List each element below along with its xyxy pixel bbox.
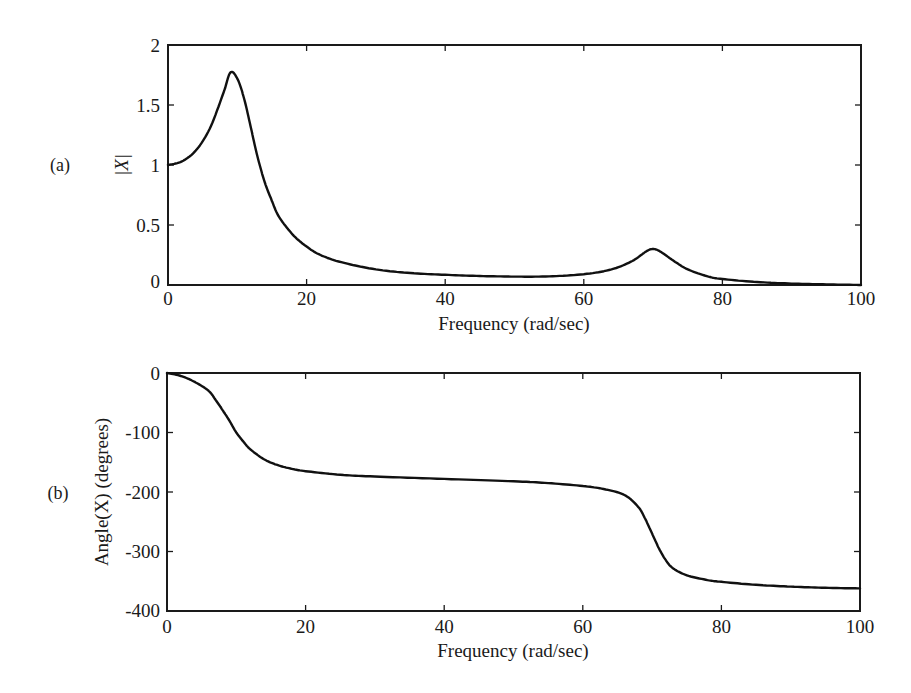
xtick-label: 100 <box>846 616 875 637</box>
figure: 2 1.5 1 0.5 0 0 20 40 60 80 100 Frequenc… <box>0 0 911 693</box>
ytick-label: 0 <box>151 363 161 384</box>
ytick-label: 0.5 <box>136 215 160 236</box>
ticks-a <box>168 45 861 285</box>
xtick-label: 80 <box>712 616 731 637</box>
ytick-label: 1 <box>151 155 161 176</box>
magnitude-curve <box>168 72 861 285</box>
x-axis-label-a: Frequency (rad/sec) <box>438 313 589 335</box>
y-axis-label-a: |X| <box>111 154 132 176</box>
plot-frame-a <box>168 45 861 285</box>
xtick-label: 0 <box>163 288 173 309</box>
ytick-label: 2 <box>151 35 161 56</box>
xtick-label: 0 <box>162 616 172 637</box>
ytick-label: -300 <box>125 541 160 562</box>
y-axis-label-b: Angle(X) (degrees) <box>91 418 113 566</box>
phase-curve <box>167 373 860 588</box>
phase-plot: 0 -100 -200 -300 -400 0 20 40 60 80 100 … <box>48 363 875 662</box>
xtick-label: 80 <box>713 288 732 309</box>
xtick-label: 40 <box>435 616 454 637</box>
ytick-label: -400 <box>125 600 160 621</box>
ytick-label: 1.5 <box>136 95 160 116</box>
panel-label-b: (b) <box>48 483 69 504</box>
xtick-label: 100 <box>847 288 876 309</box>
xtick-label: 20 <box>297 288 316 309</box>
plot-frame-b <box>167 373 860 611</box>
x-axis-label-b: Frequency (rad/sec) <box>437 640 588 662</box>
xtick-label: 60 <box>573 616 592 637</box>
xtick-label: 20 <box>296 616 315 637</box>
ticks-b <box>167 373 860 611</box>
panel-label-a: (a) <box>50 155 70 176</box>
xtick-label: 40 <box>436 288 455 309</box>
magnitude-plot: 2 1.5 1 0.5 0 0 20 40 60 80 100 Frequenc… <box>50 35 875 335</box>
ytick-label: -100 <box>125 422 160 443</box>
xtick-label: 60 <box>574 288 593 309</box>
ytick-label: -200 <box>125 482 160 503</box>
ytick-label: 0 <box>151 271 161 292</box>
